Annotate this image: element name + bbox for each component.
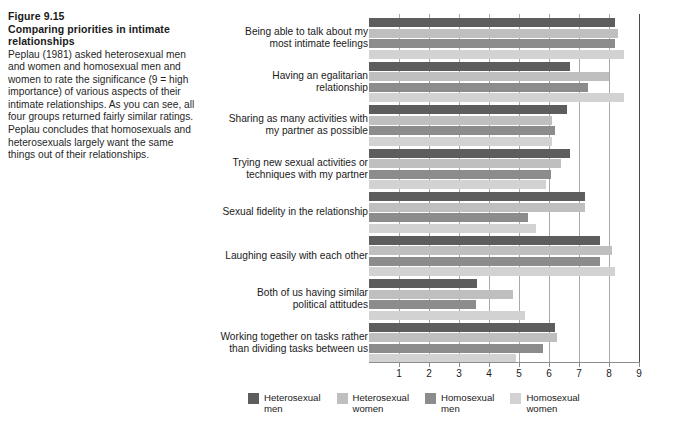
bar	[369, 213, 528, 222]
legend-item: Homosexual women	[510, 392, 579, 414]
gridline	[609, 14, 610, 362]
bar	[369, 267, 615, 276]
bar	[369, 180, 546, 189]
category-axis-labels: Being able to talk about my most intimat…	[208, 0, 368, 360]
legend-label: Heterosexual men	[264, 392, 321, 414]
category-label: Having an egalitarian relationship	[272, 70, 368, 95]
legend-item: Homosexual men	[425, 392, 494, 414]
bar	[369, 192, 585, 201]
bar	[369, 257, 600, 266]
bar	[369, 29, 618, 38]
bar	[369, 311, 525, 320]
bar	[369, 290, 513, 299]
bar	[369, 170, 551, 179]
axis-tick-label: 2	[419, 368, 439, 379]
axis-tick-label: 4	[479, 368, 499, 379]
legend-swatch-icon	[337, 393, 348, 404]
axis-tick-label: 6	[539, 368, 559, 379]
axis-tick	[489, 362, 490, 367]
legend-item: Heterosexual men	[248, 392, 321, 414]
plot-area	[369, 14, 639, 362]
legend-item: Heterosexual women	[337, 392, 410, 414]
axis-right-line	[639, 14, 640, 362]
bar	[369, 149, 570, 158]
bar	[369, 39, 615, 48]
axis-tick	[519, 362, 520, 367]
legend-label: Heterosexual women	[353, 392, 410, 414]
bar	[369, 50, 624, 59]
legend-label: Homosexual men	[441, 392, 494, 414]
category-label: Working together on tasks rather than di…	[220, 331, 368, 356]
gridline	[579, 14, 580, 362]
axis-tick	[399, 362, 400, 367]
axis-tick-label: 8	[599, 368, 619, 379]
bar	[369, 72, 609, 81]
axis-tick	[459, 362, 460, 367]
bar	[369, 105, 567, 114]
bar	[369, 83, 588, 92]
bar	[369, 344, 543, 353]
bar	[369, 18, 615, 27]
legend-swatch-icon	[425, 393, 436, 404]
axis-tick-label: 3	[449, 368, 469, 379]
bar	[369, 236, 600, 245]
axis-tick	[639, 362, 640, 367]
axis-tick-label: 7	[569, 368, 589, 379]
bar	[369, 137, 552, 146]
axis-tick	[579, 362, 580, 367]
category-label: Sexual fidelity in the relationship	[222, 206, 368, 218]
axis-tick-label: 9	[629, 368, 649, 379]
bar	[369, 323, 555, 332]
category-label: Trying new sexual activities or techniqu…	[232, 157, 368, 182]
bar-chart: Being able to talk about my most intimat…	[0, 0, 679, 437]
bar	[369, 333, 557, 342]
category-label: Being able to talk about my most intimat…	[245, 26, 368, 51]
bar	[369, 246, 612, 255]
category-label: Sharing as many activities with my partn…	[229, 113, 368, 138]
legend-swatch-icon	[510, 393, 521, 404]
category-label: Laughing easily with each other	[225, 250, 368, 262]
axis-tick-label: 1	[389, 368, 409, 379]
bar	[369, 93, 624, 102]
bar	[369, 279, 477, 288]
bar	[369, 116, 552, 125]
bar	[369, 224, 536, 233]
legend-label: Homosexual women	[526, 392, 579, 414]
axis-tick	[609, 362, 610, 367]
axis-tick	[549, 362, 550, 367]
bar	[369, 126, 555, 135]
legend-swatch-icon	[248, 393, 259, 404]
bar	[369, 203, 585, 212]
bar	[369, 159, 561, 168]
axis-tick-label: 5	[509, 368, 529, 379]
value-axis-line	[369, 362, 639, 363]
bar	[369, 300, 476, 309]
axis-tick	[429, 362, 430, 367]
chart-legend: Heterosexual menHeterosexual womenHomose…	[248, 392, 580, 414]
bar	[369, 62, 570, 71]
category-label: Both of us having similar political atti…	[257, 287, 368, 312]
